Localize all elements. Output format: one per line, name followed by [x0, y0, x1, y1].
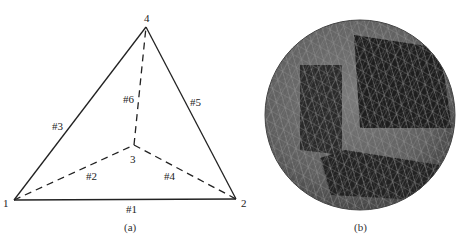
vertex-label-1: 1: [3, 197, 9, 209]
edge-label-3: #3: [52, 120, 64, 132]
panel-a-labels: 4 1 2 3 #1 #2 #3 #4 #5 #6 (a): [3, 12, 247, 234]
edge-2: [14, 145, 134, 200]
edge-3: [14, 27, 146, 200]
edge-1: [14, 199, 236, 200]
panel-b-meshed-sphere: (b): [260, 15, 460, 234]
edge-label-4: #4: [164, 170, 176, 182]
caption-a: (a): [124, 221, 137, 234]
edge-4: [134, 145, 236, 199]
panel-a-tetrahedron: [14, 27, 236, 200]
edge-6: [134, 27, 146, 145]
edge-label-6: #6: [123, 93, 135, 105]
edge-5: [146, 27, 236, 199]
edge-label-1: #1: [126, 203, 137, 215]
edge-label-5: #5: [190, 96, 202, 108]
vertex-label-3: 3: [130, 153, 136, 165]
figure: 4 1 2 3 #1 #2 #3 #4 #5 #6 (a): [0, 0, 465, 234]
vertex-label-4: 4: [144, 12, 150, 24]
edge-label-2: #2: [86, 170, 97, 182]
caption-b: (b): [354, 221, 367, 234]
vertex-label-2: 2: [241, 197, 247, 209]
